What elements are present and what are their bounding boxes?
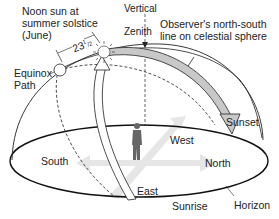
noon-sun-label-2: summer solstice [22, 17, 98, 29]
south-label: South [41, 155, 68, 167]
east-label: East [137, 185, 158, 197]
west-label: West [170, 134, 194, 146]
summer-sun-path [102, 47, 232, 121]
equinox-sun [54, 64, 66, 76]
noon-sun-label-1: Noon sun at [22, 5, 79, 17]
horizon-label: Horizon [234, 199, 270, 211]
ns-line-label-2: line on celestial sphere [160, 30, 267, 42]
zenith-label: Zenith [124, 26, 152, 38]
observer-icon [132, 123, 142, 160]
ns-line-label-1: Observer's north-south [160, 18, 266, 30]
equinox-label-1: Equinox [14, 67, 52, 79]
sunrise-label: Sunrise [172, 200, 208, 212]
sunset-label: Sunset [226, 116, 259, 128]
celestial-sphere-diagram: Noon sun at summer solstice (June) 231/2… [0, 0, 279, 219]
north-label: North [205, 157, 231, 169]
sunrise-arrow-head [94, 56, 110, 70]
noon-sun-label-3: (June) [22, 29, 52, 41]
equinox-label-2: Path [14, 79, 36, 91]
vertical-label: Vertical [124, 3, 157, 15]
